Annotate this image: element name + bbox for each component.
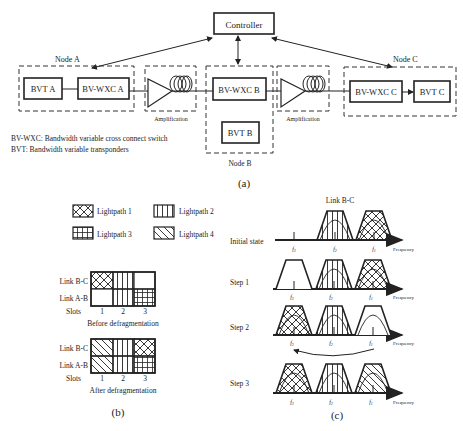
before-defragmentation-grid: Link B-C Link A-B Slots 1 2 3 Before def… bbox=[59, 272, 159, 328]
link-bc-title: Link B-C bbox=[326, 196, 355, 205]
bvwxc-c-box: BV-WXC C bbox=[350, 81, 402, 102]
svg-text:f3: f3 bbox=[290, 340, 294, 347]
svg-text:3: 3 bbox=[143, 307, 147, 316]
amplification-2-label: Amplification bbox=[286, 116, 320, 122]
panel-a-network-diagram: Controller Node A BVT A BV-WXC A Ampl bbox=[11, 13, 456, 190]
svg-text:Link B-C: Link B-C bbox=[59, 344, 88, 353]
svg-text:f2: f2 bbox=[329, 399, 333, 406]
svg-text:f1: f1 bbox=[369, 340, 373, 347]
legend-lightpath-1: Lightpath 1 bbox=[73, 205, 132, 217]
bvt-c-box: BVT C bbox=[414, 81, 450, 102]
bvt-a-label: BVT A bbox=[31, 84, 57, 94]
svg-text:Step 1: Step 1 bbox=[230, 278, 249, 287]
svg-text:3: 3 bbox=[143, 374, 147, 383]
after-defragmentation-label: After defragmentation bbox=[90, 386, 157, 395]
svg-text:Step 3: Step 3 bbox=[230, 379, 249, 388]
caption-b: (b) bbox=[112, 406, 125, 419]
svg-text:Lightpath 1: Lightpath 1 bbox=[97, 207, 132, 216]
node-a-label: Node A bbox=[55, 55, 80, 64]
svg-text:1: 1 bbox=[100, 307, 104, 316]
svg-text:Initial state: Initial state bbox=[230, 237, 264, 246]
amplifier-2-icon bbox=[281, 76, 351, 107]
spectrum-row-initial: Initial state f3 f2 f1 Frequency bbox=[230, 211, 415, 253]
svg-text:Lightpath 3: Lightpath 3 bbox=[97, 230, 132, 239]
svg-text:Frequency: Frequency bbox=[393, 341, 415, 346]
svg-text:Frequency: Frequency bbox=[393, 247, 415, 252]
svg-text:Lightpath 4: Lightpath 4 bbox=[179, 230, 214, 239]
spectrum-row-step-1: Step 1 f3 f2 f1 Frequency bbox=[230, 260, 415, 301]
caption-a: (a) bbox=[238, 177, 251, 190]
after-defragmentation-grid: Link B-C Link A-B Slots 1 2 3 After defr… bbox=[59, 339, 156, 395]
node-c-label: Node C bbox=[393, 55, 418, 64]
svg-text:2: 2 bbox=[121, 307, 125, 316]
panel-b-slot-diagram: Lightpath 1 Lightpath 2 Lightpath 3 Ligh… bbox=[59, 205, 214, 419]
control-arrow-c bbox=[272, 38, 392, 67]
spectrum-row-step-2: Step 2 f3 f2 f1 Frequency bbox=[230, 306, 415, 356]
svg-text:f2: f2 bbox=[333, 246, 337, 253]
before-defragmentation-label: Before defragmentation bbox=[87, 319, 159, 328]
controller-box: Controller bbox=[214, 13, 274, 34]
amplifier-1-icon bbox=[148, 76, 214, 107]
bvt-a-box: BVT A bbox=[24, 78, 62, 99]
svg-text:f2: f2 bbox=[329, 340, 333, 347]
svg-text:Slots: Slots bbox=[66, 307, 81, 316]
control-arrow-a bbox=[92, 38, 212, 68]
svg-text:Lightpath 2: Lightpath 2 bbox=[179, 207, 214, 216]
shift-arrow-icon bbox=[294, 349, 374, 356]
bvwxc-a-label: BV-WXC A bbox=[82, 84, 124, 94]
svg-text:f3: f3 bbox=[292, 246, 296, 253]
svg-text:Link A-B: Link A-B bbox=[59, 361, 88, 370]
svg-text:Frequency: Frequency bbox=[393, 400, 415, 405]
svg-text:f3: f3 bbox=[290, 399, 294, 406]
controller-label: Controller bbox=[226, 20, 263, 30]
panel-c-spectrum-diagram: Link B-C Initial state f3 f2 f1 Frequenc… bbox=[230, 196, 415, 422]
bvt-c-label: BVT C bbox=[420, 87, 445, 97]
svg-text:f1: f1 bbox=[372, 246, 376, 253]
svg-text:1: 1 bbox=[100, 374, 104, 383]
svg-text:f1: f1 bbox=[369, 294, 373, 301]
svg-text:Step 2: Step 2 bbox=[230, 323, 249, 332]
bvwxc-b-box: BV-WXC B bbox=[213, 78, 266, 100]
legend-lightpath-3: Lightpath 3 bbox=[73, 227, 132, 239]
spectrum-row-step-3: Step 3 f3 f2 f1 Frequency bbox=[230, 364, 415, 406]
bvwxc-b-label: BV-WXC B bbox=[218, 85, 260, 95]
legend-bvt: BVT: Bandwidth variable transponders bbox=[11, 145, 129, 154]
bvwxc-c-label: BV-WXC C bbox=[355, 87, 397, 97]
node-b-label: Node B bbox=[228, 159, 251, 168]
amplification-1-label: Amplification bbox=[154, 116, 188, 122]
svg-text:Link B-C: Link B-C bbox=[59, 277, 88, 286]
bvt-b-label: BVT B bbox=[228, 128, 253, 138]
svg-text:Link A-B: Link A-B bbox=[59, 294, 88, 303]
svg-text:2: 2 bbox=[121, 374, 125, 383]
svg-text:f2: f2 bbox=[329, 294, 333, 301]
bvt-b-box: BVT B bbox=[222, 122, 259, 143]
legend-bvwxc: BV-WXC: Bandwidth variable cross connect… bbox=[11, 134, 168, 143]
svg-text:Slots: Slots bbox=[66, 374, 81, 383]
svg-text:f1: f1 bbox=[369, 399, 373, 406]
svg-text:f3: f3 bbox=[290, 294, 294, 301]
legend-lightpath-4: Lightpath 4 bbox=[154, 227, 214, 239]
legend-lightpath-2: Lightpath 2 bbox=[154, 205, 214, 217]
bvwxc-a-box: BV-WXC A bbox=[78, 78, 129, 99]
svg-text:Frequency: Frequency bbox=[393, 295, 415, 300]
caption-c: (c) bbox=[331, 409, 344, 422]
